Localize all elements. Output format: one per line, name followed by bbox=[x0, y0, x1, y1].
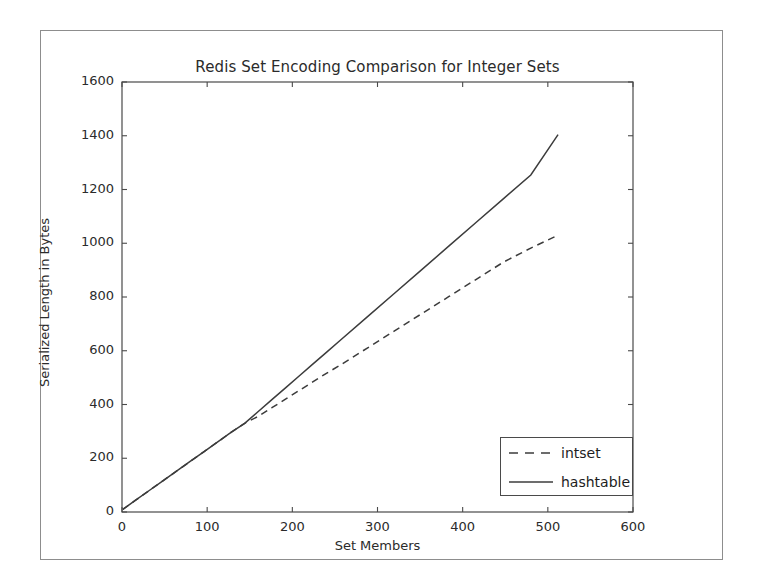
legend-item-intset: intset bbox=[501, 438, 632, 467]
legend-swatch-dashed bbox=[507, 447, 555, 459]
y-tick-label: 800 bbox=[68, 288, 114, 303]
legend-item-hashtable: hashtable bbox=[501, 467, 632, 496]
y-tick-label: 200 bbox=[68, 449, 114, 464]
legend-label-hashtable: hashtable bbox=[561, 474, 630, 490]
y-tick-label: 1400 bbox=[68, 127, 114, 142]
x-tick-label: 600 bbox=[608, 519, 658, 534]
y-tick-label: 1600 bbox=[68, 73, 114, 88]
chart-plot-area bbox=[0, 0, 761, 588]
y-tick-label: 0 bbox=[68, 503, 114, 518]
legend-swatch-solid bbox=[507, 476, 555, 488]
series-line-intset bbox=[123, 235, 558, 509]
y-tick-label: 1000 bbox=[68, 234, 114, 249]
y-tick-label: 600 bbox=[68, 342, 114, 357]
chart-legend: intset hashtable bbox=[500, 437, 633, 496]
x-tick-label: 200 bbox=[267, 519, 317, 534]
x-tick-label: 300 bbox=[353, 519, 403, 534]
x-tick-label: 100 bbox=[182, 519, 232, 534]
x-tick-label: 500 bbox=[523, 519, 573, 534]
x-tick-label: 400 bbox=[438, 519, 488, 534]
x-tick-label: 0 bbox=[97, 519, 147, 534]
x-axis-label: Set Members bbox=[122, 538, 633, 553]
legend-label-intset: intset bbox=[561, 445, 601, 461]
y-tick-label: 1200 bbox=[68, 181, 114, 196]
chart-title: Redis Set Encoding Comparison for Intege… bbox=[122, 58, 633, 76]
y-axis-label: Serialized Length in Bytes bbox=[37, 173, 52, 433]
series-line-hashtable bbox=[123, 135, 558, 510]
y-tick-label: 400 bbox=[68, 396, 114, 411]
